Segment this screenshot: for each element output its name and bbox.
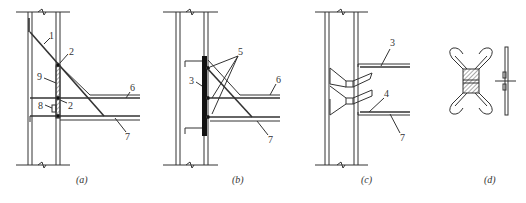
label-c-7: 7	[400, 133, 405, 143]
panel-a-drawing	[16, 9, 140, 168]
label-a-8: 8	[38, 101, 43, 111]
label-c-4: 4	[384, 89, 389, 99]
label-b-7: 7	[268, 135, 273, 145]
caption-b: (b)	[232, 174, 244, 185]
panel-d-drawing	[450, 47, 516, 115]
label-a-2-bottom: 2	[68, 101, 73, 111]
connection-details-figure	[0, 0, 526, 203]
label-c-3: 3	[390, 38, 395, 48]
label-b-3: 3	[189, 76, 194, 86]
label-a-7: 7	[125, 132, 130, 142]
caption-d: (d)	[484, 174, 496, 185]
label-a-9: 9	[37, 72, 42, 82]
label-b-5: 5	[238, 47, 243, 57]
label-b-6: 6	[276, 75, 281, 85]
panel-c-drawing	[315, 9, 410, 168]
label-a-6: 6	[130, 83, 135, 93]
panel-b-drawing	[163, 9, 280, 168]
label-a-2-top: 2	[69, 47, 74, 57]
caption-a: (a)	[76, 174, 88, 185]
caption-c: (c)	[361, 174, 372, 185]
label-a-1: 1	[49, 31, 54, 41]
